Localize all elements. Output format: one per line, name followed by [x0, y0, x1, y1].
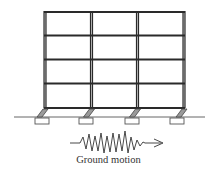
base-isolated-frame-diagram — [0, 0, 217, 178]
building-frame — [44, 11, 185, 108]
caption-ground-motion: Ground motion — [0, 154, 217, 165]
ground-motion-waveform — [70, 131, 163, 153]
floor-beams — [44, 12, 185, 108]
